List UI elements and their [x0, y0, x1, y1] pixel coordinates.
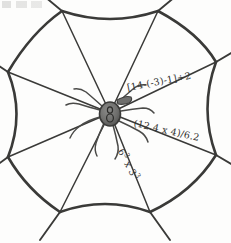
rim-segment-bottom-right: [150, 155, 216, 212]
spoke-left-upper: [8, 72, 110, 113]
spoke-top-left: [62, 11, 110, 113]
rim-segment-right: [208, 62, 217, 155]
figure-canvas: [14-(-3)-1]÷2 (12.4 x 4)/6.2 63 x 33: [0, 0, 231, 243]
spider-head: [117, 96, 132, 104]
rim-segment-top-left: [8, 11, 62, 72]
rim-segment-top-right: [158, 11, 216, 62]
spider-leg-7: [121, 108, 154, 113]
spider-web-drawing: [0, 0, 231, 243]
spoke-top-right: [110, 11, 158, 113]
rim-segment-left: [8, 72, 17, 157]
rim-segment-bottom-left: [8, 157, 60, 212]
rim-segment-bottom: [60, 204, 150, 212]
spoke-right-upper: [110, 62, 216, 113]
rim-segment-top: [62, 11, 158, 19]
